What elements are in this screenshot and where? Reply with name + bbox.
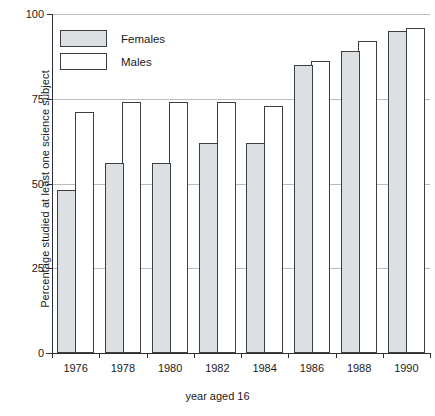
x-tick-mark bbox=[383, 353, 384, 358]
bar-males-1980 bbox=[169, 102, 188, 353]
bar-females-1982 bbox=[199, 143, 218, 353]
x-tick-mark bbox=[288, 353, 289, 358]
x-tick-mark bbox=[99, 353, 100, 358]
y-tick-label: 25 bbox=[32, 262, 44, 274]
bar-males-1976 bbox=[75, 112, 94, 353]
y-tick-mark bbox=[47, 14, 52, 15]
x-tick-label-1990: 1990 bbox=[394, 362, 418, 374]
x-axis-line bbox=[46, 353, 430, 354]
x-tick-label-1988: 1988 bbox=[347, 362, 371, 374]
bar-females-1978 bbox=[105, 163, 124, 353]
x-tick-mark bbox=[241, 353, 242, 358]
bar-females-1976 bbox=[57, 190, 76, 353]
bar-females-1990 bbox=[388, 31, 407, 353]
bar-females-1986 bbox=[294, 65, 313, 353]
legend-swatch-males bbox=[60, 53, 107, 70]
y-tick-mark bbox=[47, 268, 52, 269]
bar-males-1984 bbox=[264, 106, 283, 353]
y-tick-mark bbox=[47, 99, 52, 100]
x-tick-label-1982: 1982 bbox=[205, 362, 229, 374]
x-tick-mark bbox=[194, 353, 195, 358]
x-tick-label-1980: 1980 bbox=[158, 362, 182, 374]
bar-females-1980 bbox=[152, 163, 171, 353]
x-tick-mark bbox=[336, 353, 337, 358]
gridline bbox=[52, 14, 430, 15]
x-tick-label-1976: 1976 bbox=[63, 362, 87, 374]
x-axis-title: year aged 16 bbox=[0, 390, 435, 402]
legend-item-males: Males bbox=[60, 53, 165, 70]
chart-legend: FemalesMales bbox=[60, 30, 165, 76]
bar-females-1984 bbox=[246, 143, 265, 353]
y-tick-mark bbox=[47, 184, 52, 185]
y-tick-label: 75 bbox=[32, 93, 44, 105]
legend-label-females: Females bbox=[121, 33, 165, 45]
x-tick-label-1986: 1986 bbox=[300, 362, 324, 374]
y-tick-label: 100 bbox=[26, 8, 44, 20]
x-tick-mark bbox=[52, 353, 53, 358]
x-tick-label-1984: 1984 bbox=[252, 362, 276, 374]
y-tick-label: 0 bbox=[38, 347, 44, 359]
legend-swatch-females bbox=[60, 30, 107, 47]
bar-males-1986 bbox=[311, 61, 330, 353]
bar-males-1988 bbox=[358, 41, 377, 353]
y-tick-label: 50 bbox=[32, 178, 44, 190]
x-tick-mark bbox=[147, 353, 148, 358]
x-tick-label-1978: 1978 bbox=[111, 362, 135, 374]
bar-males-1982 bbox=[217, 102, 236, 353]
legend-label-males: Males bbox=[121, 56, 152, 68]
bar-males-1978 bbox=[122, 102, 141, 353]
legend-item-females: Females bbox=[60, 30, 165, 47]
y-axis-line bbox=[52, 14, 53, 353]
bar-males-1990 bbox=[406, 28, 425, 353]
science-subject-bar-chart: Percentage studied at least one science … bbox=[0, 0, 435, 416]
x-tick-mark bbox=[430, 353, 431, 358]
bar-females-1988 bbox=[341, 51, 360, 353]
